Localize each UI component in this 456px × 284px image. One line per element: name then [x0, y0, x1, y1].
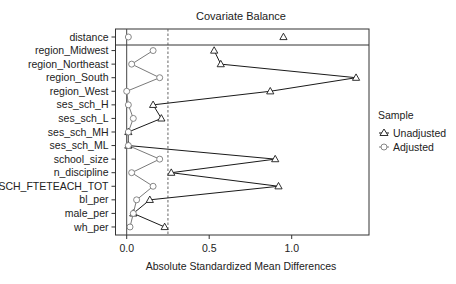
y-tick-label: school_size	[54, 153, 109, 165]
love-plot-chart: Covariate Balance distanceregion_Midwest…	[0, 0, 456, 284]
x-axis-label: Absolute Standardized Mean Differences	[146, 260, 337, 272]
triangle-marker-icon	[158, 115, 165, 121]
y-tick-label: region_South	[46, 71, 109, 83]
plot-area	[116, 29, 370, 235]
circle-marker-icon	[134, 197, 140, 203]
y-tick-label: ses_sch_ML	[50, 139, 109, 151]
series-line-adjusted	[127, 51, 160, 227]
y-tick-label: region_Midwest	[35, 44, 109, 56]
circle-marker-icon	[125, 102, 131, 108]
y-tick-label: region_Northeast	[28, 58, 109, 70]
circle-marker-icon	[130, 210, 136, 216]
legend-label-unadjusted: Unadjusted	[393, 127, 446, 139]
legend: Sample Unadjusted Adjusted	[378, 109, 446, 153]
circle-marker-icon	[124, 88, 130, 94]
y-axis: distanceregion_Midwestregion_Northeastre…	[0, 31, 116, 233]
y-tick-label: SCH_FTETEACH_TOT	[0, 180, 109, 192]
circle-marker-icon	[127, 224, 133, 230]
legend-item-unadjusted: Unadjusted	[379, 127, 446, 139]
triangle-marker-icon	[280, 33, 287, 39]
y-tick-label: ses_sch_H	[57, 98, 109, 110]
circle-marker-icon	[125, 34, 131, 40]
x-tick-label: 0.0	[119, 242, 134, 254]
circle-marker-icon	[150, 183, 156, 189]
circle-marker-icon	[129, 170, 135, 176]
y-tick-label: n_discipline	[54, 166, 109, 178]
y-tick-label: wh_per	[73, 221, 109, 233]
circle-marker-icon	[157, 75, 163, 81]
circle-marker-icon	[125, 143, 131, 149]
y-tick-label: male_per	[65, 207, 109, 219]
legend-title: Sample	[378, 109, 414, 121]
triangle-marker-icon	[380, 129, 388, 136]
y-tick-label: distance	[69, 31, 108, 43]
plot-frame	[116, 29, 370, 235]
legend-label-adjusted: Adjusted	[393, 141, 434, 153]
circle-marker-icon	[150, 48, 156, 54]
x-axis: 0.00.51.0	[119, 235, 299, 254]
circle-marker-icon	[125, 129, 131, 135]
triangle-marker-icon	[211, 47, 218, 53]
y-tick-label: region_West	[50, 85, 109, 97]
circle-marker-icon	[130, 115, 136, 121]
legend-item-adjusted: Adjusted	[379, 141, 434, 153]
x-tick-label: 0.5	[202, 242, 217, 254]
triangle-marker-icon	[217, 60, 224, 66]
circle-marker-icon	[129, 61, 135, 67]
y-tick-label: ses_sch_L	[58, 112, 108, 124]
x-tick-label: 1.0	[284, 242, 299, 254]
y-tick-label: ses_sch_MH	[48, 126, 109, 138]
y-tick-label: bl_per	[79, 193, 109, 205]
circle-marker-icon	[157, 156, 163, 162]
circle-marker-icon	[381, 144, 387, 150]
chart-title: Covariate Balance	[196, 10, 286, 22]
